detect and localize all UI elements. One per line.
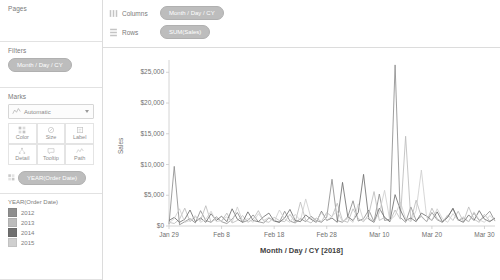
legend-title: YEAR(Order Date) bbox=[8, 199, 94, 205]
left-panel: Pages Filters Month / Day / CY Marks Aut… bbox=[0, 0, 103, 280]
legend-item-2014[interactable]: 2014 bbox=[8, 228, 94, 238]
legend-item-2012[interactable]: 2012 bbox=[8, 208, 94, 218]
marks-button-size[interactable]: Size bbox=[37, 123, 66, 144]
tableau-worksheet: Pages Filters Month / Day / CY Marks Aut… bbox=[0, 0, 500, 280]
columns-drop-zone[interactable]: Month / Day / CY bbox=[160, 6, 494, 20]
mark-type-select[interactable]: Automatic bbox=[8, 104, 94, 119]
detail-icon bbox=[18, 147, 26, 155]
main-area: Columns Month / Day / CY Rows SUM(Sales) bbox=[103, 0, 500, 280]
x-tick-label: Mar 30 bbox=[472, 231, 496, 238]
marks-button-detail[interactable]: Detail bbox=[8, 144, 37, 165]
rows-shelf-label: Rows bbox=[122, 29, 160, 36]
legend-item-label: 2012 bbox=[21, 210, 34, 216]
mark-type-label: Automatic bbox=[21, 109, 85, 115]
legend-swatch bbox=[8, 228, 17, 237]
legend-item-2015[interactable]: 2015 bbox=[8, 238, 94, 248]
pages-card: Pages bbox=[0, 0, 102, 42]
marks-encoding-row: YEAR(Order Date) bbox=[8, 171, 94, 185]
rows-shelf: Rows SUM(Sales) bbox=[109, 24, 494, 40]
legend-swatch bbox=[8, 208, 17, 217]
marks-button-tooltip-label: Tooltip bbox=[43, 156, 59, 162]
marks-pill-year-order-date[interactable]: YEAR(Order Date) bbox=[18, 171, 86, 185]
chevron-down-icon bbox=[85, 110, 89, 113]
y-tick-label: $15,000 bbox=[141, 130, 165, 137]
color-encoding-icon bbox=[8, 174, 15, 181]
legend-swatch bbox=[8, 238, 17, 247]
filter-pill-month-day-cy[interactable]: Month / Day / CY bbox=[8, 58, 72, 72]
y-tick-label: $20,000 bbox=[141, 99, 165, 106]
legend-item-label: 2014 bbox=[21, 230, 34, 236]
marks-button-tooltip[interactable]: Tooltip bbox=[37, 144, 66, 165]
y-tick-label: $0 bbox=[157, 222, 164, 229]
color-legend-card: YEAR(Order Date) 2012 2013 2014 2015 bbox=[0, 194, 102, 280]
marks-button-size-label: Size bbox=[46, 135, 57, 141]
marks-card: Marks Automatic Color bbox=[0, 88, 102, 194]
x-tick-label: Feb 8 bbox=[210, 231, 234, 238]
marks-button-path-label: Path bbox=[74, 156, 85, 162]
rows-drop-zone[interactable]: SUM(Sales) bbox=[160, 25, 494, 39]
rows-icon bbox=[109, 28, 118, 37]
x-tick-label: Mar 20 bbox=[420, 231, 444, 238]
columns-shelf: Columns Month / Day / CY bbox=[109, 5, 494, 21]
marks-button-color[interactable]: Color bbox=[8, 123, 37, 144]
y-axis-title: Sales bbox=[117, 138, 124, 154]
size-icon bbox=[47, 126, 55, 134]
x-tick-label: Feb 28 bbox=[315, 231, 339, 238]
marks-button-path[interactable]: Path bbox=[65, 144, 94, 165]
x-tick-label: Feb 18 bbox=[262, 231, 286, 238]
shelves: Columns Month / Day / CY Rows SUM(Sales) bbox=[103, 0, 500, 48]
line-mark-icon bbox=[12, 107, 21, 116]
path-icon bbox=[76, 147, 84, 155]
visualization-pane[interactable]: Sales Month / Day / CY [2018] $0$5,000$1… bbox=[103, 48, 500, 280]
filters-title: Filters bbox=[8, 47, 94, 54]
y-tick-label: $25,000 bbox=[141, 68, 165, 75]
tooltip-icon bbox=[47, 147, 55, 155]
label-icon bbox=[76, 126, 84, 134]
legend-item-2013[interactable]: 2013 bbox=[8, 218, 94, 228]
columns-icon bbox=[109, 9, 118, 18]
marks-title: Marks bbox=[8, 93, 94, 100]
legend-item-label: 2015 bbox=[21, 240, 34, 246]
filters-card: Filters Month / Day / CY bbox=[0, 42, 102, 88]
marks-button-grid: Color Size Label bbox=[8, 123, 94, 165]
color-icon bbox=[18, 126, 26, 134]
y-tick-label: $5,000 bbox=[144, 191, 164, 198]
rows-pill-sum-sales[interactable]: SUM(Sales) bbox=[160, 25, 210, 39]
series-line-2015[interactable] bbox=[169, 170, 495, 223]
y-tick-label: $10,000 bbox=[141, 161, 165, 168]
legend-swatch bbox=[8, 218, 17, 227]
columns-pill-month-day-cy[interactable]: Month / Day / CY bbox=[160, 6, 224, 20]
legend-item-label: 2013 bbox=[21, 220, 34, 226]
pages-title: Pages bbox=[8, 5, 94, 12]
marks-button-label-label: Label bbox=[73, 135, 86, 141]
columns-shelf-label: Columns bbox=[122, 10, 160, 17]
x-tick-label: Mar 10 bbox=[367, 231, 391, 238]
marks-button-detail-label: Detail bbox=[15, 156, 29, 162]
marks-button-label[interactable]: Label bbox=[65, 123, 94, 144]
marks-button-color-label: Color bbox=[16, 135, 29, 141]
x-tick-label: Jan 29 bbox=[157, 231, 181, 238]
x-axis-title: Month / Day / CY [2018] bbox=[103, 246, 500, 255]
series-line-2012[interactable] bbox=[169, 65, 495, 225]
